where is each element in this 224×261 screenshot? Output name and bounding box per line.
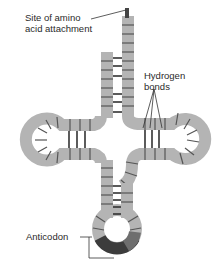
acceptor-stem [101,8,134,118]
d-arm-hydrogen-bonds [69,131,85,148]
leader-lines [80,10,162,258]
amino-acid-site [125,8,129,18]
anticodon-label: Anticodon [26,231,68,242]
hydrogen-bonds-label: Hydrogen bonds [144,70,185,92]
d-arm [26,116,101,163]
amino-acid-site-label: Site of amino acid attachment [25,12,92,34]
trna-diagram [0,0,224,261]
t-arm-hydrogen-bonds [145,130,159,148]
t-arm [121,113,205,188]
acceptor-hydrogen-bonds [113,58,122,112]
